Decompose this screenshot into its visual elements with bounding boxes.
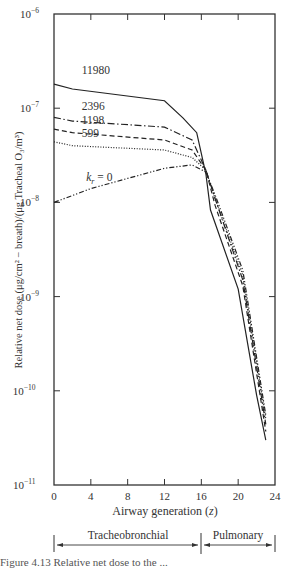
x-tick-label: 24	[270, 490, 282, 502]
region-label-tracheobronchial: Tracheobronchial	[88, 529, 169, 541]
y-tick-label: 10−11	[13, 477, 36, 491]
x-tick-label: 16	[196, 490, 208, 502]
x-tick-label: 12	[159, 490, 170, 502]
x-tick-label: 4	[88, 490, 94, 502]
x-tick-label: 20	[233, 490, 245, 502]
curve-label: 1198	[82, 114, 105, 126]
figure-caption: Figure 4.13 Relative net dose to the ...	[0, 556, 291, 568]
plot-frame	[54, 14, 275, 485]
y-tick-label: 10−10	[13, 383, 36, 397]
series-line-599	[54, 142, 266, 419]
curve-label: 11980	[82, 64, 111, 76]
y-tick-label: 10−6	[20, 6, 39, 20]
x-tick-label: 8	[125, 490, 131, 502]
series-line-2396	[54, 117, 266, 424]
region-brackets: Tracheobronchial Pulmonary	[54, 529, 275, 554]
series-line-kr0	[54, 165, 266, 415]
curve-label: 599	[82, 127, 100, 139]
x-tick-label: 0	[51, 490, 57, 502]
x-axis-ticks: 04812162024	[51, 14, 281, 502]
x-axis-label: Airway generation (z)	[112, 504, 217, 518]
region-label-pulmonary: Pulmonary	[213, 529, 264, 542]
curve-labels: 1198023961198599kr = 0	[82, 64, 113, 186]
y-axis-label: Relative net dose (μg/cm² − breath)/(μg …	[13, 131, 25, 368]
curve-label: 2396	[82, 100, 105, 112]
y-axis-ticks: 10−610−710−810−910−1010−11	[13, 6, 275, 491]
y-tick-label: 10−7	[20, 100, 39, 114]
